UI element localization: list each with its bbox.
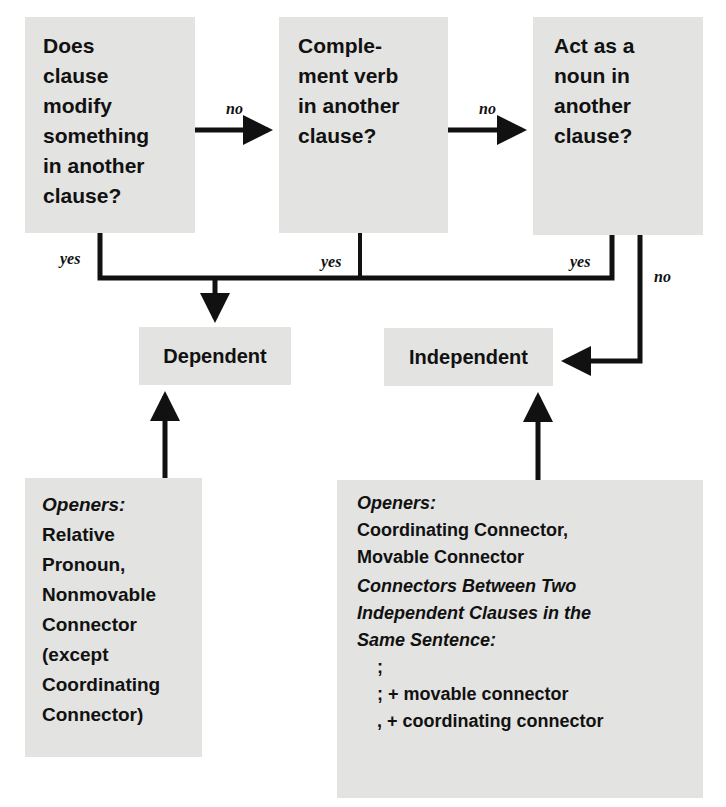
yes-bus-line — [100, 233, 612, 278]
question-line: in another — [43, 151, 195, 181]
label-yes-q1: yes — [60, 250, 80, 268]
question-line: Act as a — [554, 31, 703, 61]
opener-line: Coordinating — [42, 670, 202, 700]
question-complement-box: Comple- ment verb in another clause? — [279, 17, 448, 233]
label-no-q3: no — [654, 268, 671, 286]
label-yes-q3: yes — [570, 253, 590, 271]
question-line: Does — [43, 31, 195, 61]
connectors-heading-line: Connectors Between Two — [357, 573, 703, 600]
opener-line: (except — [42, 640, 202, 670]
opener-line: Relative — [42, 520, 202, 550]
dependent-openers-box: Openers: Relative Pronoun, Nonmovable Co… — [25, 478, 202, 757]
question-line: clause? — [298, 121, 448, 151]
question-line: Comple- — [298, 31, 448, 61]
question-modify-box: Does clause modify something in another … — [25, 17, 195, 233]
question-line: clause? — [43, 181, 195, 211]
openers-heading: Openers: — [357, 490, 703, 517]
question-line: clause — [43, 61, 195, 91]
opener-line: Movable Connector — [357, 544, 703, 571]
question-line: noun in — [554, 61, 703, 91]
question-line: clause? — [554, 121, 703, 151]
dependent-label: Dependent — [163, 345, 266, 368]
label-no-q2-q3: no — [479, 100, 496, 118]
independent-label: Independent — [409, 346, 528, 369]
connector-item: ; — [357, 654, 703, 681]
openers-heading: Openers: — [42, 490, 202, 520]
independent-openers-box: Openers: Coordinating Connector, Movable… — [337, 480, 703, 798]
label-no-q1-q2: no — [226, 100, 243, 118]
question-line: something — [43, 121, 195, 151]
independent-box: Independent — [384, 328, 553, 386]
question-line: another — [554, 91, 703, 121]
opener-line: Connector) — [42, 700, 202, 730]
connector-item: ; + movable connector — [357, 681, 703, 708]
connectors-heading-line: Same Sentence: — [357, 627, 703, 654]
opener-line: Connector — [42, 610, 202, 640]
label-yes-q2: yes — [321, 253, 341, 271]
question-line: in another — [298, 91, 448, 121]
connectors-heading-line: Independent Clauses in the — [357, 600, 703, 627]
dependent-box: Dependent — [139, 327, 291, 385]
question-line: modify — [43, 91, 195, 121]
question-noun-box: Act as a noun in another clause? — [533, 17, 703, 235]
opener-line: Nonmovable — [42, 580, 202, 610]
opener-line: Coordinating Connector, — [357, 517, 703, 544]
question-line: ment verb — [298, 61, 448, 91]
opener-line: Pronoun, — [42, 550, 202, 580]
connector-item: , + coordinating connector — [357, 708, 703, 735]
